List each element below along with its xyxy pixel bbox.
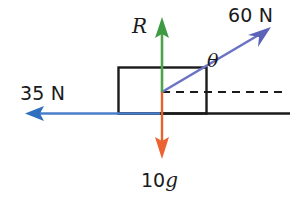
weight-label: 10g: [141, 170, 178, 190]
angle-theta-label: θ: [207, 51, 218, 70]
friction-force-vector: [25, 106, 160, 121]
weight-label-symbol: g: [165, 168, 178, 192]
normal-reaction-vector: [155, 17, 169, 92]
force-diagram-figure: 60 N R 35 N θ 10g: [0, 0, 294, 205]
friction-force-label: 35 N: [20, 84, 65, 103]
weight-label-number: 10: [141, 169, 165, 191]
weight-vector: [155, 92, 169, 159]
normal-reaction-label: R: [132, 16, 147, 36]
applied-force-label: 60 N: [228, 6, 273, 25]
applied-force-arrowhead: [248, 27, 271, 47]
